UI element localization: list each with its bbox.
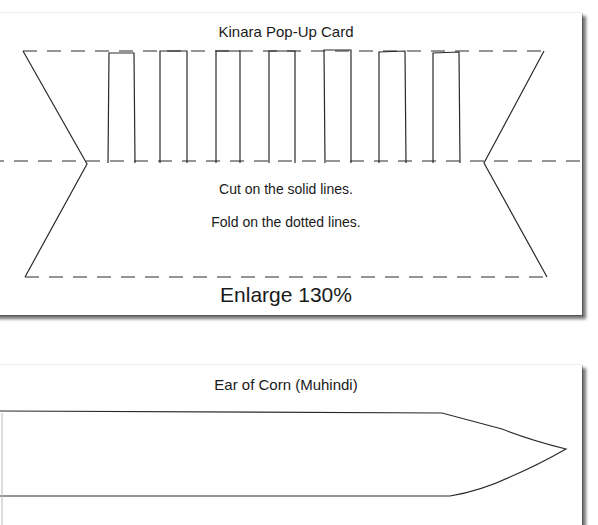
candle-7 [433,52,460,163]
candle-4 [269,51,295,163]
candle-2 [160,51,187,163]
candle-6 [379,51,406,163]
fold-instruction: Fold on the dotted lines. [0,214,582,230]
candle-cuts [108,50,460,163]
kinara-template-drawing [0,13,582,315]
enlarge-note: Enlarge 130% [0,283,582,307]
right-chevron-cut [484,51,547,277]
cut-instruction: Cut on the solid lines. [0,181,582,197]
corn-outline-cut [0,411,566,496]
kinara-card-title: Kinara Pop-Up Card [0,23,582,40]
corn-card: Ear of Corn (Muhindi) [0,364,582,525]
kinara-card: Kinara Pop-Up Card Cut on the solid line… [0,12,582,315]
corn-card-title: Ear of Corn (Muhindi) [0,376,582,393]
left-chevron-cut [23,51,87,277]
candle-3 [216,51,240,163]
candle-5 [324,50,351,163]
candle-1 [108,53,135,163]
